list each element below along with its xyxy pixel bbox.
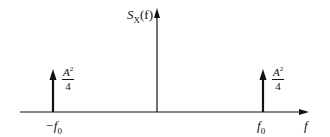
- x-axis-arrow-icon: [299, 109, 309, 115]
- pos-f0-label: f0: [257, 119, 265, 136]
- impulse-pos-f0-weight: A2 4: [272, 66, 284, 92]
- impulse-pos-f0-arrow-icon: [260, 69, 267, 80]
- weight-numerator-exponent: 2: [70, 65, 74, 73]
- impulse-neg-f0-weight: A2 4: [62, 66, 74, 92]
- y-axis-label: SX(f): [127, 8, 153, 25]
- weight-denominator: 4: [62, 80, 74, 92]
- y-axis-label-argument: (f): [140, 7, 153, 22]
- weight-denominator: 4: [272, 80, 284, 92]
- weight-numerator-base: A: [273, 66, 280, 78]
- weight-numerator-exponent: 2: [280, 65, 284, 73]
- x-axis-label: f: [304, 119, 308, 132]
- y-axis-arrow-icon: [154, 8, 160, 18]
- neg-f0-symbol: −f: [45, 118, 57, 133]
- weight-numerator-base: A: [63, 66, 70, 78]
- neg-f0-label: −f0: [45, 119, 62, 136]
- impulse-neg-f0-arrow-icon: [50, 69, 57, 80]
- pos-f0-subscript: 0: [261, 126, 266, 136]
- neg-f0-subscript: 0: [57, 126, 62, 136]
- weight-numerator: A2: [62, 66, 74, 80]
- weight-numerator: A2: [272, 66, 284, 80]
